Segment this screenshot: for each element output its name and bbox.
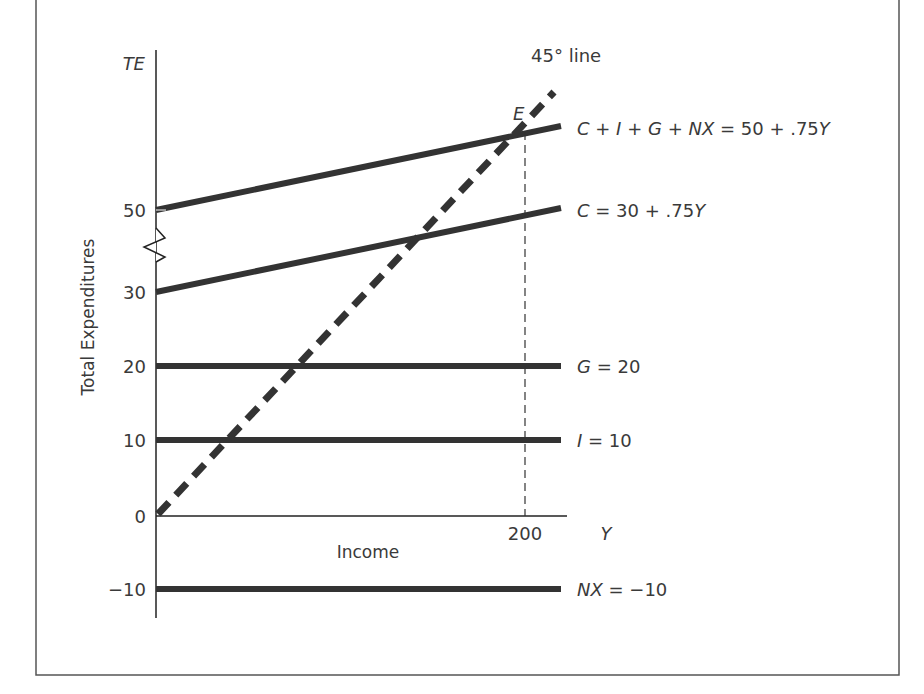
ae-line: [156, 126, 561, 210]
line-45-label: 45° line: [531, 45, 601, 66]
y-tick-50: 50: [123, 200, 146, 221]
y-tick-10: 10: [123, 430, 146, 451]
y-tick-neg10: −10: [108, 579, 146, 600]
equilibrium-label: E: [513, 103, 525, 124]
y-axis-title: Total Expenditures: [78, 238, 98, 396]
line-45-degree: [158, 92, 554, 514]
y-tick-20: 20: [123, 356, 146, 377]
y-tick-0: 0: [135, 506, 146, 527]
nx-line-label: NX = −10: [577, 579, 667, 600]
x-tick-200: 200: [508, 523, 542, 544]
y-tick-30: 30: [123, 282, 146, 303]
ae-line-label: C + I + G + NX = 50 + .75Y: [577, 118, 832, 139]
c-line-label: C = 30 + .75Y: [577, 200, 707, 221]
figure-frame: [36, 0, 899, 675]
x-axis-title: Income: [337, 542, 400, 562]
i-line-label: I = 10: [577, 430, 632, 451]
x-axis-symbol: Y: [601, 523, 614, 544]
g-line-label: G = 20: [577, 356, 640, 377]
axis-break-icon: [144, 228, 165, 262]
y-axis-symbol: TE: [123, 53, 146, 74]
keynesian-cross-chart: 50 30 20 10 0 −10 200 Y TE Income Total …: [0, 0, 924, 694]
c-line: [156, 208, 561, 292]
